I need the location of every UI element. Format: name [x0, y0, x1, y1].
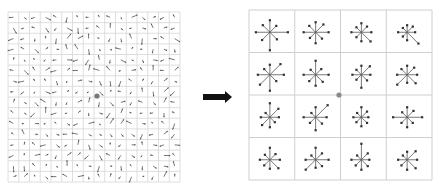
- keypoint-marker-left: [94, 93, 99, 98]
- keypoint-marker-right: [336, 92, 341, 97]
- sift-descriptor-diagram: [0, 0, 433, 188]
- right-arrow-icon: [203, 91, 232, 103]
- diagram-canvas: [0, 0, 433, 188]
- image-gradients-grid: [8, 12, 180, 182]
